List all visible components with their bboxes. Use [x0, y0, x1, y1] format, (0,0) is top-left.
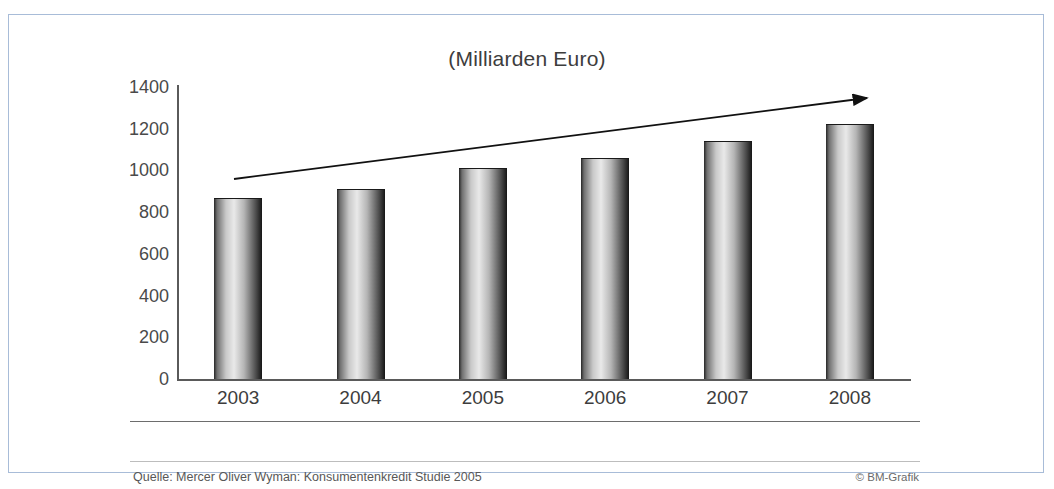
x-axis-tick-label-2008: 2008 — [790, 387, 910, 409]
bar-2007 — [704, 141, 752, 379]
bar-2006 — [581, 158, 629, 379]
y-axis-tick-label: 1400 — [109, 77, 169, 98]
y-axis-tick-label: 400 — [109, 285, 169, 306]
y-axis-tick-label: 800 — [109, 202, 169, 223]
bar-2005 — [459, 168, 507, 379]
chart-area: (Milliarden Euro) 0200400600800100012001… — [9, 15, 1045, 474]
y-axis-tick-labels: 0200400600800100012001400 — [107, 15, 169, 474]
y-axis-tick-label: 600 — [109, 243, 169, 264]
y-axis-tick-label: 1000 — [109, 160, 169, 181]
top-edge-text-stub — [14, 0, 234, 8]
y-axis-tick-label: 0 — [109, 369, 169, 390]
figure-root: (Milliarden Euro) 0200400600800100012001… — [0, 0, 1054, 489]
bar-2003 — [214, 198, 262, 379]
x-axis-tick-label-2004: 2004 — [301, 387, 421, 409]
bar-series: 200320042005200620072008 — [177, 15, 911, 474]
copyright-credit: © BM-Grafik — [856, 471, 919, 483]
y-axis-tick-label: 1200 — [109, 118, 169, 139]
y-axis-tick-label: 200 — [109, 327, 169, 348]
bar-2004 — [337, 189, 385, 379]
x-axis-tick-label-2007: 2007 — [668, 387, 788, 409]
bar-2008 — [826, 124, 874, 380]
source-caption: Quelle: Mercer Oliver Wyman: Konsumenten… — [133, 470, 482, 484]
chart-frame: (Milliarden Euro) 0200400600800100012001… — [8, 14, 1044, 473]
x-axis-tick-label-2006: 2006 — [545, 387, 665, 409]
x-axis-tick-label-2005: 2005 — [423, 387, 543, 409]
x-axis-tick-label-2003: 2003 — [178, 387, 298, 409]
